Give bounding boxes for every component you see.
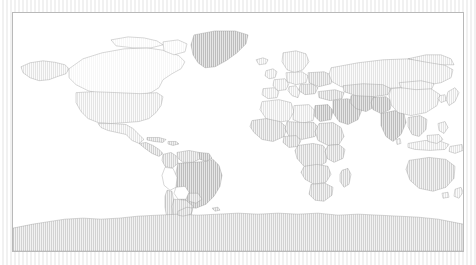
region-tasmania[interactable] [442,192,449,198]
region-antarctica[interactable] [13,213,463,251]
map-viewport [0,0,476,265]
region-sri-lanka[interactable] [396,138,401,144]
region-libya[interactable] [293,105,315,124]
world-map-svg[interactable] [13,13,463,251]
world-map-frame[interactable] [12,12,464,252]
